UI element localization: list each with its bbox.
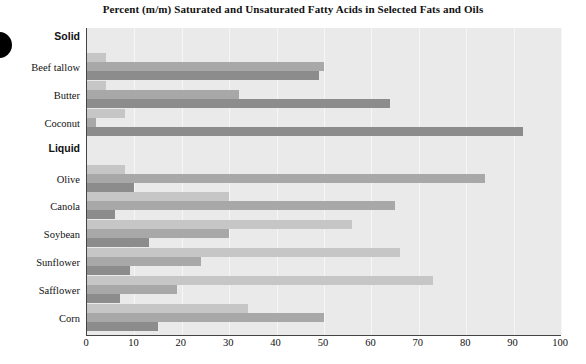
- bar-canola-series-2: [87, 201, 395, 210]
- x-tick-90: 90: [507, 337, 518, 348]
- x-tick-10: 10: [128, 337, 139, 348]
- bar-beef-tallow-series-2: [87, 62, 324, 71]
- y-axis-label-beef-tallow: Beef tallow: [31, 62, 80, 74]
- plot-area: [86, 28, 561, 336]
- bar-safflower-series-3: [87, 294, 120, 303]
- y-axis-label-safflower: Safflower: [39, 285, 80, 297]
- x-tick-30: 30: [223, 337, 234, 348]
- bar-sunflower-series-3: [87, 266, 130, 275]
- y-axis-labels: SolidBeef tallowButterCoconutLiquidOlive…: [0, 28, 84, 335]
- bar-group-coconut: [87, 112, 561, 140]
- bar-group-safflower: [87, 279, 561, 307]
- bar-safflower-series-1: [87, 276, 433, 285]
- bar-rows: [87, 28, 561, 335]
- bar-coconut-series-3: [87, 127, 523, 136]
- bar-beef-tallow-series-3: [87, 71, 319, 80]
- bar-sunflower-series-2: [87, 257, 201, 266]
- y-group-header-liquid: Liquid: [49, 142, 81, 154]
- x-tick-60: 60: [365, 337, 376, 348]
- y-axis-label-corn: Corn: [59, 313, 80, 325]
- bar-beef-tallow-series-1: [87, 53, 106, 62]
- x-tick-80: 80: [460, 337, 471, 348]
- bar-sunflower-series-1: [87, 248, 400, 257]
- y-axis-label-olive: Olive: [57, 174, 80, 186]
- y-group-header-solid: Solid: [54, 30, 80, 42]
- bar-group-corn: [87, 307, 561, 335]
- x-tick-40: 40: [270, 337, 281, 348]
- bar-olive-series-2: [87, 174, 485, 183]
- bar-soybean-series-2: [87, 229, 229, 238]
- chart-root: Percent (m/m) Saturated and Unsaturated …: [0, 0, 586, 364]
- bar-soybean-series-3: [87, 238, 149, 247]
- bar-corn-series-3: [87, 322, 158, 331]
- x-tick-100: 100: [552, 337, 568, 348]
- bar-group-olive: [87, 168, 561, 196]
- bar-group-canola: [87, 195, 561, 223]
- bar-coconut-series-1: [87, 109, 125, 118]
- bar-group-soybean: [87, 223, 561, 251]
- bar-olive-series-3: [87, 183, 134, 192]
- gridline-100: [561, 28, 562, 335]
- y-axis-label-soybean: Soybean: [44, 229, 80, 241]
- bar-group-sunflower: [87, 251, 561, 279]
- y-axis-label-coconut: Coconut: [44, 118, 80, 130]
- y-axis-label-sunflower: Sunflower: [36, 257, 80, 269]
- bar-soybean-series-1: [87, 220, 352, 229]
- x-tick-20: 20: [176, 337, 187, 348]
- bar-olive-series-1: [87, 165, 125, 174]
- bar-group-beef-tallow: [87, 56, 561, 84]
- bar-canola-series-3: [87, 210, 115, 219]
- bar-butter-series-3: [87, 99, 390, 108]
- y-axis-label-canola: Canola: [50, 201, 80, 213]
- bar-corn-series-2: [87, 313, 324, 322]
- chart-title: Percent (m/m) Saturated and Unsaturated …: [0, 3, 586, 15]
- x-axis-ticks: 0102030405060708090100: [0, 337, 586, 357]
- bar-safflower-series-2: [87, 285, 177, 294]
- x-tick-0: 0: [83, 337, 88, 348]
- x-tick-70: 70: [413, 337, 424, 348]
- bar-butter-series-1: [87, 81, 106, 90]
- bar-canola-series-1: [87, 192, 229, 201]
- y-axis-label-butter: Butter: [54, 90, 80, 102]
- bar-butter-series-2: [87, 90, 239, 99]
- bar-coconut-series-2: [87, 118, 96, 127]
- bar-group-butter: [87, 84, 561, 112]
- bar-corn-series-1: [87, 304, 248, 313]
- x-tick-50: 50: [318, 337, 329, 348]
